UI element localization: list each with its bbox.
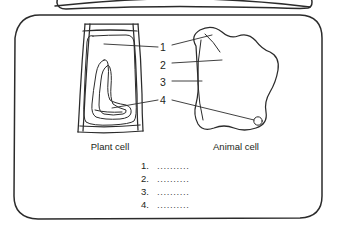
callout-numbers: 1 2 3 4	[160, 41, 166, 106]
answer-row-2-blank: ..........	[157, 173, 189, 184]
leader-lines	[104, 35, 254, 120]
cell-diagram-figure: 1 2 3 4 Plant cell Animal cell 1. ......…	[0, 0, 338, 236]
plant-cell-drawing	[78, 24, 143, 133]
animal-cell-caption: Animal cell	[213, 141, 259, 152]
top-partial-panel	[55, 0, 312, 9]
diagram-captions: Plant cell Animal cell	[91, 141, 259, 152]
answer-row-4-blank: ..........	[157, 199, 189, 210]
answer-row-1-blank: ..........	[157, 160, 189, 171]
callout-number-1: 1	[160, 41, 166, 53]
worksheet-page: 1 2 3 4 Plant cell Animal cell 1. ......…	[0, 0, 338, 236]
centriole-circle	[254, 117, 262, 125]
plant-cell-caption: Plant cell	[91, 141, 130, 152]
answer-row-2-number: 2.	[141, 173, 149, 184]
callout-number-2: 2	[160, 59, 166, 71]
answer-row-1-number: 1.	[141, 160, 149, 171]
callout-number-3: 3	[160, 76, 166, 88]
answer-row-3-blank: ..........	[157, 186, 189, 197]
callout-number-4: 4	[160, 94, 166, 106]
answer-row-4-number: 4.	[141, 199, 149, 210]
answer-list: 1. .......... 2. .......... 3. .........…	[141, 160, 189, 210]
animal-cell-drawing	[194, 27, 279, 130]
answer-row-3-number: 3.	[141, 186, 149, 197]
